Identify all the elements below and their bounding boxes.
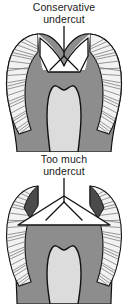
panel-too-much-undercut: Too much undercut <box>0 152 128 304</box>
tooth-cross-section-conservative-undercut <box>0 26 128 152</box>
caption-conservative-undercut: Conservative undercut <box>0 2 128 25</box>
tooth-cross-section-too-much-undercut <box>0 178 128 304</box>
caption-too-much-undercut: Too much undercut <box>0 154 128 177</box>
pulp-chamber-excessive <box>47 246 81 304</box>
figure-root: Conservative undercut <box>0 0 128 304</box>
panel-conservative-undercut: Conservative undercut <box>0 0 128 152</box>
pulp-chamber-conservative <box>47 86 81 152</box>
